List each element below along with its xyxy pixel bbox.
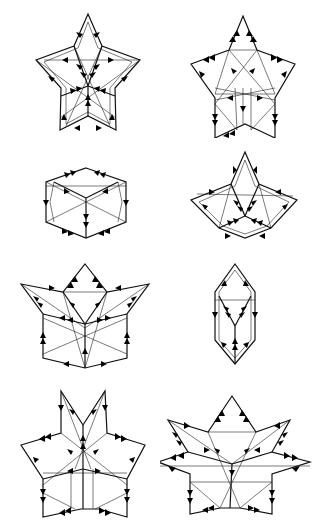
figure-1-star-inward [20,8,160,138]
figure-4-outline [191,152,297,238]
figure-7-split-star [15,385,155,530]
arrow-icons [202,166,288,239]
figure-1-outline [36,14,140,130]
figure-2-star-outward [175,8,315,138]
arrow-icons [168,410,300,513]
figure-5-lotus [15,258,155,373]
cropped-caption [0,0,325,2]
figure-3-hexagon-box [40,162,140,242]
figure-2-outline [191,16,295,138]
figure-4-fan [175,148,315,248]
figure-6-lens [205,260,265,370]
figure-8-seven-point-star [160,390,320,530]
